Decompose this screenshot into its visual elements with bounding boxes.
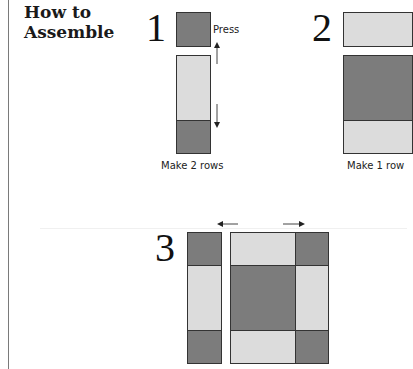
step-2-bottom-strip	[343, 120, 413, 154]
step-2-number: 2	[312, 8, 332, 48]
step-1-number: 1	[146, 8, 166, 48]
step-3-number: 3	[155, 228, 175, 268]
section-title: How to Assemble	[24, 2, 114, 42]
step-3-bottom-strip	[230, 330, 296, 364]
step-1-caption: Make 2 rows	[161, 160, 223, 171]
margin-rule	[8, 0, 9, 369]
step-1-bottom-square	[176, 120, 211, 154]
step-1-top-square	[176, 12, 211, 47]
arrow-up-icon	[213, 42, 221, 64]
step-3-left-middle	[187, 265, 222, 331]
step-3-top-strip	[230, 232, 296, 266]
step-2-top-strip	[343, 12, 413, 47]
step-3-left-top	[187, 232, 222, 266]
press-label: Press	[213, 24, 239, 35]
arrow-right-icon	[283, 220, 305, 228]
step-2-caption: Make 1 row	[347, 160, 404, 171]
arrow-left-icon	[217, 220, 239, 228]
step-3-left-bottom	[187, 330, 222, 364]
step-3-center-block	[230, 265, 296, 331]
step-3-right-middle	[295, 265, 329, 331]
step-2-center-block	[343, 55, 413, 121]
title-line-1: How to	[24, 2, 114, 22]
step-3-top-right-square	[295, 232, 329, 266]
arrow-down-icon	[213, 104, 221, 128]
title-line-2: Assemble	[24, 22, 114, 42]
faint-divider	[40, 228, 407, 229]
step-3-bottom-right-square	[295, 330, 329, 364]
step-1-light-patch	[176, 55, 211, 121]
